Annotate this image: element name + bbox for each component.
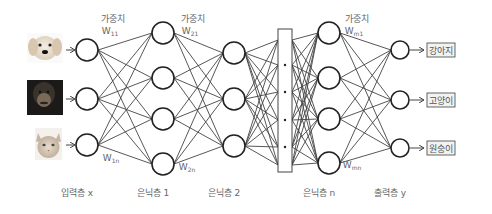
output-label: 원숭이 <box>429 144 453 154</box>
dog-image <box>27 33 63 63</box>
output-label: 강아지 <box>429 46 453 56</box>
svg-text:W2n: W2n <box>179 162 196 173</box>
layer-label: 은닉층 2 <box>208 188 241 198</box>
cat-image <box>35 128 62 160</box>
input-arrows <box>66 50 75 145</box>
hidden1-node <box>152 67 174 89</box>
input-node <box>76 88 98 110</box>
layer-labels: 입력층 x은닉층 1은닉층 2은닉층 n출력층 y <box>61 187 407 198</box>
layer-label: 출력층 y <box>374 187 407 198</box>
output-label-box: 원숭이 <box>427 141 455 155</box>
chimpanzee-image <box>27 80 63 115</box>
neural-network-diagram: 강아지고양이원숭이 가중치W11가중치W21가중치Wm1W1nW2nWmn 입력… <box>0 0 492 214</box>
hiddenN-node <box>318 152 340 174</box>
svg-text:W21: W21 <box>182 26 199 37</box>
output-node <box>391 91 409 109</box>
output-label: 고양이 <box>429 96 453 106</box>
svg-text:W11: W11 <box>102 26 119 37</box>
ellipsis-layer-box <box>278 29 292 172</box>
weight-label: W2n <box>179 162 196 173</box>
hidden2-node <box>223 42 245 64</box>
hidden2-node <box>223 135 245 157</box>
layer-label: 은닉층 n <box>303 188 336 198</box>
svg-text:Wm1: Wm1 <box>345 26 364 37</box>
svg-text:가중치: 가중치 <box>181 13 205 24</box>
weight-label: 가중치W21 <box>181 13 205 37</box>
hidden1-node <box>152 153 174 175</box>
weight-label: W1n <box>103 153 120 164</box>
output-node <box>391 41 409 59</box>
hidden1-node <box>152 108 174 130</box>
weight-label: 가중치Wm1 <box>345 13 369 37</box>
weight-label: 가중치W11 <box>101 13 125 37</box>
layer-label: 은닉층 1 <box>137 188 170 198</box>
input-node <box>76 134 98 156</box>
hiddenN-node <box>318 22 340 44</box>
svg-text:가중치: 가중치 <box>101 13 125 24</box>
output-labels: 강아지고양이원숭이 <box>410 43 455 155</box>
output-label-box: 고양이 <box>427 93 455 107</box>
svg-text:Wmn: Wmn <box>343 160 362 171</box>
hiddenN-node <box>318 67 340 89</box>
hidden2-node <box>223 88 245 110</box>
output-label-box: 강아지 <box>427 43 455 57</box>
svg-text:가중치: 가중치 <box>345 13 369 24</box>
weight-label: Wmn <box>343 160 362 171</box>
hidden1-node <box>152 22 174 44</box>
svg-text:W1n: W1n <box>103 153 120 164</box>
hiddenN-node <box>318 108 340 130</box>
input-node <box>76 39 98 61</box>
layer-label: 입력층 x <box>61 187 94 198</box>
neuron-nodes <box>76 22 409 175</box>
output-node <box>391 139 409 157</box>
